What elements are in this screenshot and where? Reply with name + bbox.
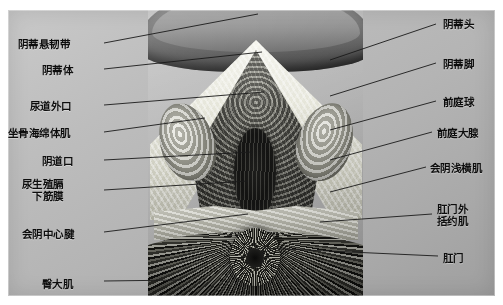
structure-label-left-1: 阴蒂体 — [42, 64, 73, 76]
structure-label-left-0: 阴蒂悬韧带 — [18, 38, 70, 50]
structure-label-right-5: 肛门 — [443, 252, 464, 264]
anatomical-figure: 阴蒂悬韧带阴蒂体尿道外口坐骨海绵体肌阴道口会阴中心腱臀大肌尿生殖膈下筋膜阴蒂头阴… — [8, 10, 495, 296]
leader-line-right-5 — [262, 248, 438, 256]
structure-label-right-0: 阴蒂头 — [443, 18, 474, 30]
structure-label-right-1: 阴蒂脚 — [443, 58, 474, 70]
structure-label-right-3: 前庭大腺 — [437, 127, 479, 139]
structure-label-right-2: 前庭球 — [443, 96, 474, 108]
label-line-2: 括约肌 — [437, 215, 468, 227]
leader-line-left-6 — [104, 280, 182, 281]
structure-label-left-4: 阴道口 — [42, 155, 73, 167]
leader-line-left-3 — [104, 118, 205, 132]
label-line-1: 肛门外 — [437, 203, 468, 215]
structure-label-left-5: 会阴中心腱 — [22, 228, 74, 240]
leader-line-right-0 — [330, 24, 436, 60]
leader-line-right-4 — [330, 167, 426, 192]
structure-label-left-3: 坐骨海绵体肌 — [8, 127, 70, 139]
label-line-2: 下筋膜 — [22, 190, 64, 202]
leader-line-right-2 — [330, 101, 436, 130]
leader-line-left-2 — [104, 92, 264, 105]
label-line-1: 尿生殖膈 — [22, 178, 64, 190]
structure-label-left-6: 臀大肌 — [42, 278, 73, 290]
structure-label-right-4: 会阴浅横肌 — [430, 162, 482, 174]
leader-line-left-m0 — [104, 181, 248, 190]
leader-line-left-4 — [104, 152, 252, 160]
leader-lines — [8, 10, 495, 296]
leader-line-right-m0 — [320, 214, 432, 222]
leader-line-right-3 — [330, 132, 432, 160]
leader-line-left-1 — [104, 52, 262, 69]
structure-label-right-m0: 肛门外括约肌 — [437, 203, 468, 227]
leader-line-left-0 — [104, 14, 258, 43]
leader-line-left-5 — [104, 214, 248, 232]
structure-label-left-2: 尿道外口 — [30, 100, 72, 112]
structure-label-left-m0: 尿生殖膈下筋膜 — [22, 178, 64, 202]
leader-line-right-1 — [330, 63, 436, 96]
